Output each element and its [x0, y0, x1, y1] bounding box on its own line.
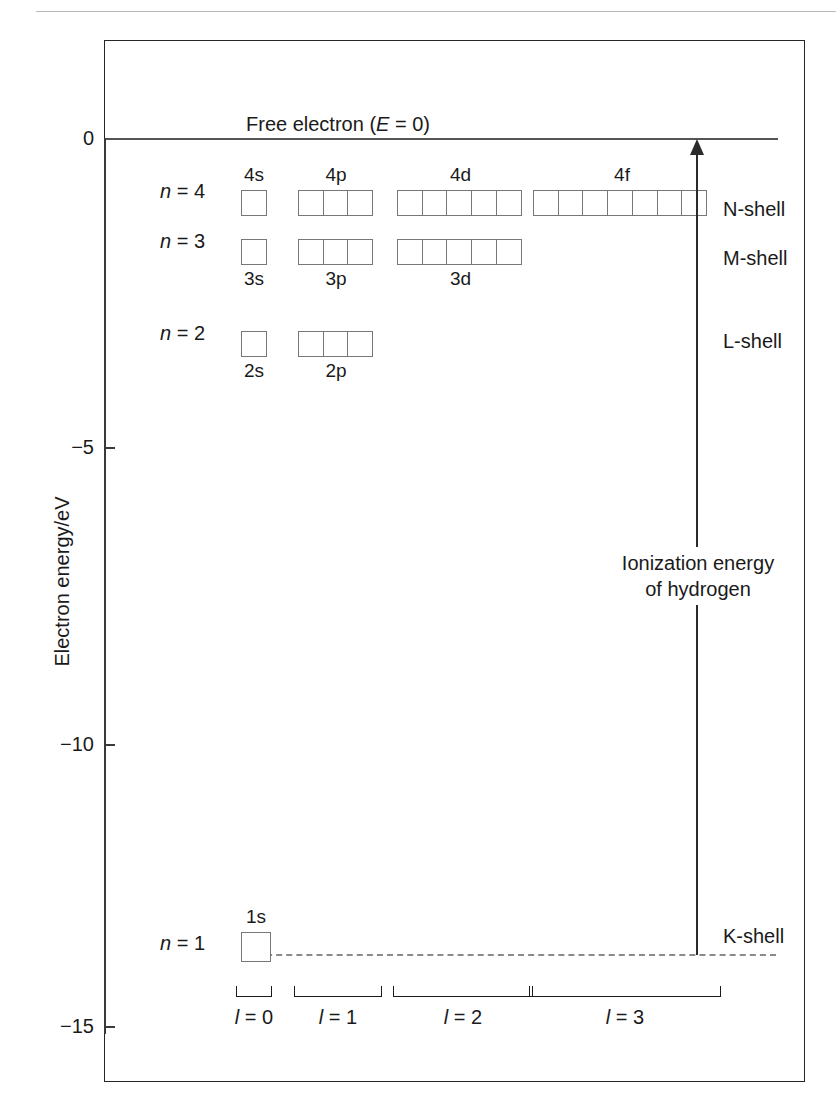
orbital-box	[298, 331, 324, 357]
page-top-rule	[36, 11, 836, 12]
n-label-2: n = 2	[160, 322, 205, 345]
orbital-label-4f: 4f	[533, 164, 711, 186]
l-label-2: l = 2	[423, 1006, 503, 1029]
orbital-label-3p: 3p	[298, 268, 374, 290]
orbital-box	[397, 239, 423, 265]
orbital-group-4s	[241, 190, 267, 216]
orbital-label-4d: 4d	[397, 164, 524, 186]
y-tick-label-0: 0	[44, 128, 94, 148]
n-value-1: = 1	[171, 932, 205, 954]
shell-label-k-shell: K-shell	[723, 925, 784, 948]
orbital-group-2s	[241, 331, 267, 357]
orbital-group-4f	[533, 190, 707, 216]
orbital-box	[446, 190, 472, 216]
orbital-label-2p: 2p	[298, 360, 374, 382]
orbital-box	[533, 190, 559, 216]
n-label-4: n = 4	[160, 180, 205, 203]
n-symbol-4: n	[160, 180, 171, 202]
orbital-box	[347, 331, 373, 357]
y-tick-minus5	[104, 447, 115, 449]
orbital-box	[422, 190, 448, 216]
l-bracket-1	[294, 986, 382, 997]
y-axis-title: Electron energy/eV	[51, 452, 74, 712]
orbital-box	[681, 190, 707, 216]
orbital-box	[632, 190, 658, 216]
n-label-3: n = 3	[160, 230, 205, 253]
shell-label-l-shell: L-shell	[723, 330, 782, 353]
l-bracket-2	[393, 986, 533, 997]
free-electron-zero-line	[106, 138, 778, 140]
orbital-label-2s: 2s	[241, 360, 267, 382]
orbital-box	[496, 190, 522, 216]
orbital-label-3s: 3s	[241, 268, 267, 290]
orbital-box	[422, 239, 448, 265]
free-electron-suffix: = 0)	[389, 113, 430, 135]
free-electron-prefix: Free electron (	[246, 113, 376, 135]
ground-state-dashed-line	[256, 954, 776, 956]
orbital-box	[657, 190, 683, 216]
l-bracket-0	[236, 986, 272, 997]
y-tick-label-minus10: −10	[24, 734, 94, 754]
orbital-group-4p	[298, 190, 373, 216]
orbital-box	[496, 239, 522, 265]
n-symbol-1: n	[160, 932, 171, 954]
orbital-group-2p	[298, 331, 373, 357]
y-tick-label-minus5: −5	[34, 437, 94, 457]
orbital-box	[446, 239, 472, 265]
shell-label-n-shell: N-shell	[723, 198, 785, 221]
y-axis-line	[104, 138, 106, 1034]
shell-label-m-shell: M-shell	[723, 247, 787, 270]
ionization-energy-label: Ionization energy of hydrogen	[600, 547, 796, 605]
orbital-box	[241, 331, 267, 357]
orbital-box	[347, 190, 373, 216]
orbital-group-3s	[241, 239, 267, 265]
y-tick-minus10	[104, 744, 115, 746]
y-tick-minus15	[104, 1026, 115, 1028]
orbital-box	[298, 190, 324, 216]
orbital-label-3d: 3d	[397, 268, 524, 290]
n-symbol-3: n	[160, 230, 171, 252]
orbital-box	[298, 239, 324, 265]
orbital-group-3d	[397, 239, 522, 265]
l-label-3: l = 3	[585, 1006, 665, 1029]
orbital-box	[558, 190, 584, 216]
l-value-1: = 1	[323, 1006, 357, 1028]
orbital-box	[323, 331, 349, 357]
orbital-label-4s: 4s	[241, 164, 267, 186]
l-bracket-3	[529, 986, 721, 997]
l-value-0: = 0	[239, 1006, 273, 1028]
n-value-4: = 4	[171, 180, 205, 202]
y-tick-label-minus15: −15	[24, 1016, 94, 1036]
n-value-3: = 3	[171, 230, 205, 252]
orbital-box	[582, 190, 608, 216]
n-label-1: n = 1	[160, 932, 205, 955]
free-electron-symbol: E	[376, 113, 389, 135]
orbital-box	[241, 190, 267, 216]
orbital-group-1s	[241, 932, 271, 962]
l-label-1: l = 1	[298, 1006, 378, 1029]
orbital-label-1s: 1s	[241, 906, 271, 928]
l-value-3: = 3	[610, 1006, 644, 1028]
orbital-box	[241, 239, 267, 265]
ionization-energy-line1: Ionization energy	[600, 550, 796, 576]
l-value-2: = 2	[448, 1006, 482, 1028]
orbital-box	[471, 239, 497, 265]
orbital-box	[471, 190, 497, 216]
orbital-box	[397, 190, 423, 216]
orbital-box	[607, 190, 633, 216]
l-label-0: l = 0	[214, 1006, 294, 1029]
orbital-box	[241, 932, 271, 962]
orbital-group-3p	[298, 239, 373, 265]
n-value-2: = 2	[171, 322, 205, 344]
orbital-box	[347, 239, 373, 265]
orbital-box	[323, 239, 349, 265]
orbital-label-4p: 4p	[298, 164, 374, 186]
orbital-box	[323, 190, 349, 216]
orbital-group-4d	[397, 190, 522, 216]
n-symbol-2: n	[160, 322, 171, 344]
free-electron-label: Free electron (E = 0)	[246, 113, 430, 136]
ionization-energy-line2: of hydrogen	[600, 576, 796, 602]
